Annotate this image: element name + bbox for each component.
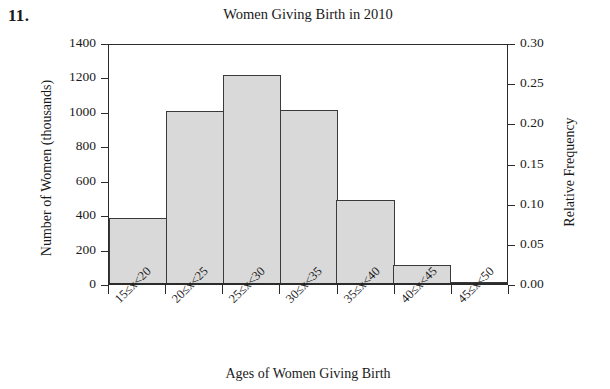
y-axis-tick-left bbox=[101, 216, 108, 217]
x-axis-tick bbox=[165, 285, 166, 294]
y-axis-tick-label-right: 0.15 bbox=[520, 156, 544, 172]
y-axis-tick-label-left: 800 bbox=[76, 138, 96, 154]
y-axis-tick-label-left: 1200 bbox=[69, 69, 96, 85]
bar bbox=[166, 111, 224, 283]
x-axis-title: Ages of Women Giving Birth bbox=[108, 366, 508, 382]
x-axis-tick bbox=[222, 285, 223, 294]
y2-axis-title: Relative Frequency bbox=[562, 62, 578, 282]
y-axis-tick-label-left: 400 bbox=[76, 207, 96, 223]
chart-title: Women Giving Birth in 2010 bbox=[108, 6, 508, 23]
y-axis-tick-label-left: 1400 bbox=[69, 35, 96, 51]
problem-number: 11. bbox=[8, 6, 29, 26]
bar-series bbox=[109, 45, 507, 283]
histogram-figure: 11. Women Giving Birth in 2010 Number of… bbox=[0, 0, 610, 389]
y-axis-tick-label-right: 0.10 bbox=[520, 196, 544, 212]
y-axis-tick-left bbox=[101, 44, 108, 45]
y-axis-tick-label-left: 200 bbox=[76, 242, 96, 258]
plot-area bbox=[108, 44, 508, 285]
y-axis-tick-label-right: 0.20 bbox=[520, 115, 544, 131]
y-axis-tick-right bbox=[508, 205, 515, 206]
y-axis-tick-label-right: 0.30 bbox=[520, 35, 544, 51]
y-axis-tick-label-right: 0.25 bbox=[520, 75, 544, 91]
x-axis-tick bbox=[279, 285, 280, 294]
bar bbox=[223, 75, 281, 283]
y-axis-tick-left bbox=[101, 182, 108, 183]
y-axis-tick-left bbox=[101, 147, 108, 148]
x-axis-tick bbox=[394, 285, 395, 294]
bar bbox=[280, 110, 338, 283]
y-axis-tick-label-right: 0.00 bbox=[520, 276, 544, 292]
y-axis-title: Number of Women (thousands) bbox=[39, 43, 55, 293]
y-axis-tick-label-right: 0.05 bbox=[520, 236, 544, 252]
y-axis-tick-left bbox=[101, 78, 108, 79]
y-axis-tick-left bbox=[101, 285, 108, 286]
x-axis-tick bbox=[108, 285, 109, 294]
x-axis-tick bbox=[337, 285, 338, 294]
y-axis-tick-right bbox=[508, 44, 515, 45]
y-axis-tick-right bbox=[508, 245, 515, 246]
y-axis-tick-label-left: 0 bbox=[89, 276, 96, 292]
y-axis-tick-right bbox=[508, 165, 515, 166]
y-axis-tick-label-left: 1000 bbox=[69, 104, 96, 120]
x-axis-tick bbox=[508, 285, 509, 294]
y-axis-tick-right bbox=[508, 124, 515, 125]
y-axis-tick-right bbox=[508, 84, 515, 85]
y-axis-tick-right bbox=[508, 285, 515, 286]
y-axis-tick-label-left: 600 bbox=[76, 173, 96, 189]
y-axis-tick-left bbox=[101, 251, 108, 252]
y-axis-tick-left bbox=[101, 113, 108, 114]
x-axis-tick bbox=[451, 285, 452, 294]
